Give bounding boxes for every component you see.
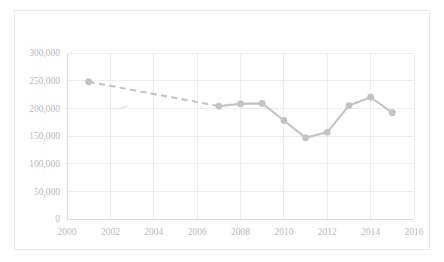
- x-axis-tick-label: 2012: [318, 227, 337, 237]
- data-point-marker: [389, 109, 396, 116]
- y-axis-tick-label: 250,000: [29, 76, 60, 86]
- x-axis-tick-label: 2006: [188, 227, 207, 237]
- data-point-marker: [259, 100, 266, 107]
- data-point-marker: [324, 129, 331, 136]
- chart-plot-frame: 050,000100,000150,000200,000250,000300,0…: [14, 10, 430, 250]
- y-axis-tick-label: 100,000: [29, 159, 60, 169]
- x-axis-tick-label: 2008: [231, 227, 250, 237]
- series-line-solid: [219, 97, 393, 137]
- x-axis-tick-labels: 200020022004200620082010201220142016: [58, 227, 424, 237]
- data-point-marker: [367, 94, 374, 101]
- data-point-marker: [237, 101, 244, 108]
- data-point-marker: [280, 117, 287, 124]
- y-axis-tick-label: 150,000: [29, 131, 60, 141]
- x-axis-tick-label: 2016: [405, 227, 424, 237]
- y-axis-tick-labels: 050,000100,000150,000200,000250,000300,0…: [29, 48, 60, 224]
- data-point-marker: [302, 134, 309, 141]
- data-point-marker: [215, 103, 222, 110]
- x-axis-tick-label: 2004: [144, 227, 163, 237]
- data-point-marker: [85, 78, 92, 85]
- y-axis-tick-label: 0: [55, 214, 60, 224]
- y-axis-tick-label: 300,000: [29, 48, 60, 58]
- x-axis-tick-label: 2002: [101, 227, 120, 237]
- y-axis-tick-label: 50,000: [34, 187, 60, 197]
- data-point-marker: [346, 102, 353, 109]
- x-axis-tick-label: 2010: [274, 227, 293, 237]
- y-axis-tick-label: 200,000: [29, 104, 60, 114]
- line-chart-canvas: 050,000100,000150,000200,000250,000300,0…: [15, 11, 429, 249]
- chart-figure: 050,000100,000150,000200,000250,000300,0…: [0, 0, 444, 262]
- x-axis-tick-label: 2014: [361, 227, 380, 237]
- x-axis-tick-label: 2000: [58, 227, 77, 237]
